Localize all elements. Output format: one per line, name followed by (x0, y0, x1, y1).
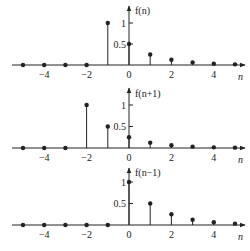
panel-f-n-minus-1: f(n−1) n 0.51−4−2024 (12, 167, 245, 242)
stem-marker (84, 63, 88, 67)
stem-marker (169, 212, 173, 216)
stem-marker (169, 143, 173, 147)
x-axis-label: n (238, 154, 243, 165)
stem-marker (42, 223, 46, 227)
x-tick-label: −4 (39, 69, 50, 80)
x-tick-label: 0 (127, 69, 132, 80)
stem-marker (190, 144, 194, 148)
stem-marker (21, 63, 25, 67)
panel-f-n: f(n) n 0.51−4−2024 (12, 5, 245, 82)
stem-marker (148, 52, 152, 56)
stem-marker (148, 201, 152, 205)
stem-marker (169, 58, 173, 62)
stem-marker (84, 103, 88, 107)
y-tick-label: 0.5 (114, 39, 127, 50)
x-tick-label: 0 (127, 152, 132, 163)
stem-marker (84, 223, 88, 227)
stem-marker (127, 180, 131, 184)
y-tick-label: 1 (121, 18, 126, 29)
x-axis-label: n (238, 71, 243, 82)
stem-marker (212, 220, 216, 224)
stem-marker (190, 60, 194, 64)
stem-marker (233, 221, 237, 225)
y-tick-label: 0.5 (114, 121, 127, 132)
x-tick-label: 4 (211, 229, 216, 240)
panel-f-n-plus-1: f(n+1) n 0.51−4−2024 (12, 88, 245, 165)
stem-marker (212, 61, 216, 65)
y-tick-label: 1 (121, 177, 126, 188)
stem-marker (63, 223, 67, 227)
y-axis-label: f(n) (135, 5, 150, 17)
x-tick-label: 0 (127, 229, 132, 240)
x-tick-label: −2 (81, 229, 92, 240)
stem-plot-figure: f(n) n 0.51−4−2024 f(n+1) n 0.51−4−2024 … (0, 0, 250, 251)
stem-marker (148, 140, 152, 144)
stem-marker (63, 63, 67, 67)
y-axis-label: f(n−1) (135, 167, 161, 179)
stem-marker (127, 42, 131, 46)
stem-marker (21, 223, 25, 227)
x-tick-label: 2 (169, 229, 174, 240)
stem-marker (212, 145, 216, 149)
stem-marker (233, 145, 237, 149)
x-axis-label: n (238, 231, 243, 242)
stem-marker (233, 62, 237, 66)
stem-marker (106, 223, 110, 227)
stem-marker (42, 146, 46, 150)
x-tick-label: −2 (81, 152, 92, 163)
stem-marker (127, 135, 131, 139)
stem-marker (106, 21, 110, 25)
x-tick-label: 4 (211, 69, 216, 80)
y-tick-label: 0.5 (114, 198, 127, 209)
x-tick-label: −4 (39, 229, 50, 240)
stem-marker (190, 217, 194, 221)
stem-marker (63, 146, 67, 150)
x-tick-label: −4 (39, 152, 50, 163)
x-tick-label: 2 (169, 152, 174, 163)
stem-marker (21, 146, 25, 150)
stem-marker (42, 63, 46, 67)
x-tick-label: 2 (169, 69, 174, 80)
y-tick-label: 1 (121, 100, 126, 111)
stem-marker (106, 124, 110, 128)
x-tick-label: 4 (211, 152, 216, 163)
y-axis-label: f(n+1) (135, 88, 161, 100)
x-tick-label: −2 (81, 69, 92, 80)
